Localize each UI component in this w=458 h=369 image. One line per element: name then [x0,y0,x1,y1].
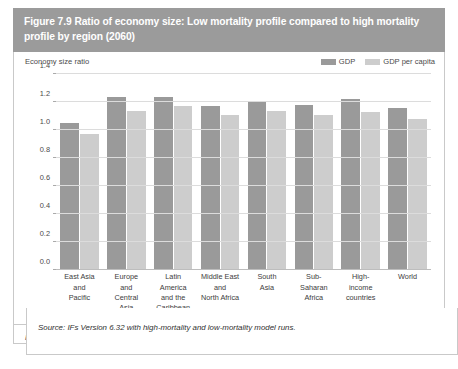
x-axis-label-line: countries [338,293,383,303]
figure-header: Figure 7.9 Ratio of economy size: Low mo… [13,8,445,52]
gridline [56,241,431,242]
y-axis-tickmark [53,213,56,214]
x-axis-label-line: Latin [151,272,196,282]
x-axis-label-line: and [198,283,243,293]
y-axis: 0.00.20.40.60.81.01.21.4 [31,74,54,270]
bar [388,108,407,270]
legend-swatch-gdp [321,59,336,65]
y-axis-title: Economy size ratio [25,57,89,66]
legend-label: GDP per capita [383,57,435,66]
bar [314,115,333,270]
bar [127,111,146,271]
bar [80,134,99,270]
bar [361,112,380,270]
y-axis-tick-label: 1.4 [40,61,50,70]
gridline [56,73,431,74]
x-axis-label-line: and [104,283,149,293]
x-axis-label-line: East Asia [57,272,102,282]
plot-area: 0.00.20.40.60.81.01.21.4 [31,74,431,270]
x-axis-label-line: Saharan [291,283,336,293]
bar [201,106,220,270]
y-axis-tick-label: 1.0 [40,117,50,126]
legend-swatch-gdp-per-capita [365,59,380,65]
bar [107,97,126,271]
figure-body: Economy size ratio GDPGDP per capita 0.0… [13,52,445,344]
x-axis-label-line: Asia [245,283,290,293]
bar [221,115,240,270]
x-axis-label-line: High- [338,272,383,282]
x-axis-label-line: Europe [104,272,149,282]
bar [267,111,286,271]
x-axis-label-line: Pacific [57,293,102,303]
x-axis-label-line: Sub- [291,272,336,282]
y-axis-tick-label: 0.8 [40,145,50,154]
source-strip: Source: IFs Version 6.32 with high-morta… [26,308,458,355]
figure-card: Figure 7.9 Ratio of economy size: Low mo… [13,8,445,355]
y-axis-tickmark [53,269,56,270]
gridline [56,157,431,158]
figure-title: Figure 7.9 Ratio of economy size: Low mo… [24,15,434,44]
bar [60,123,79,270]
x-axis-label-line: Africa [291,293,336,303]
x-axis-label-line: America [151,283,196,293]
gridline [56,129,431,130]
legend-row: Economy size ratio GDPGDP per capita [14,57,444,71]
y-axis-tick-label: 1.2 [40,89,50,98]
y-axis-tickmark [53,241,56,242]
gridline [56,269,431,270]
y-axis-tickmark [53,129,56,130]
figure-source: Source: IFs Version 6.32 with high-morta… [38,323,296,332]
legend-label: GDP [339,57,355,66]
x-axis-label-line: Central [104,293,149,303]
legend-item: GDP per capita [365,57,435,66]
y-axis-tick-label: 0.6 [40,173,50,182]
gridline [56,213,431,214]
legend-item: GDP [321,57,355,66]
y-axis-tickmark [53,73,56,74]
x-axis-label-line: and [57,283,102,293]
gridline [56,101,431,102]
y-axis-tickmark [53,185,56,186]
chart-legend: GDPGDP per capita [321,57,435,66]
bar [174,106,193,270]
x-axis-label-line: South [245,272,290,282]
y-axis-tick-label: 0.4 [40,201,50,210]
y-axis-tickmark [53,101,56,102]
grid-zone [56,74,431,270]
x-axis-label-line: income [338,283,383,293]
x-axis-label-line: North Africa [198,293,243,303]
y-axis-tick-label: 0.0 [40,257,50,266]
bar [154,97,173,271]
gridline [56,185,431,186]
x-axis-label-line: World [385,272,430,282]
bar [408,119,427,270]
y-axis-tickmark [53,157,56,158]
y-axis-tick-label: 0.2 [40,229,50,238]
x-axis-label-line: Middle East [198,272,243,282]
x-axis-label-line: and the [151,293,196,303]
